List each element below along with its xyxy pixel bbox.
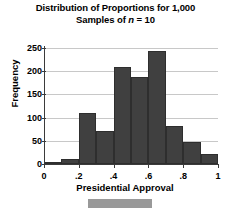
y-axis-tick-mark bbox=[42, 141, 46, 142]
histogram-bar bbox=[148, 51, 165, 164]
y-axis-label: Frequency bbox=[9, 44, 20, 124]
y-axis-tick-mark bbox=[42, 48, 46, 49]
histogram-bar-group bbox=[44, 48, 218, 164]
caption-strip bbox=[88, 199, 152, 208]
x-axis-tick-label: 0 bbox=[33, 171, 55, 181]
y-axis-tick-mark bbox=[42, 118, 46, 119]
histogram-bar bbox=[96, 131, 113, 164]
y-axis-tick-mark bbox=[42, 71, 46, 72]
chart-title-line-1: Distribution of Proportions for 1,000 bbox=[0, 2, 231, 14]
x-axis-tick-label: 1 bbox=[207, 171, 229, 181]
x-axis-tick-mark bbox=[79, 164, 80, 168]
x-axis-tick-mark bbox=[114, 164, 115, 168]
histogram-bar bbox=[114, 67, 131, 164]
chart-title-line-2-suffix: = 10 bbox=[134, 14, 155, 25]
x-axis-tick-mark bbox=[218, 164, 219, 168]
histogram-bar bbox=[201, 154, 218, 164]
x-axis-tick-label: .8 bbox=[172, 171, 194, 181]
histogram-bar bbox=[79, 113, 96, 164]
chart-title: Distribution of Proportions for 1,000 Sa… bbox=[0, 2, 231, 26]
chart-title-line-2-prefix: Samples of bbox=[76, 14, 128, 25]
y-axis-tick-label: 50 bbox=[14, 137, 42, 146]
chart-title-line-2: Samples of n = 10 bbox=[0, 14, 231, 26]
x-axis-tick-label: .4 bbox=[103, 171, 125, 181]
x-axis-label: Presidential Approval bbox=[30, 182, 220, 193]
y-axis-tick-label: 0 bbox=[14, 160, 42, 169]
histogram-figure: Distribution of Proportions for 1,000 Sa… bbox=[0, 0, 231, 208]
x-axis-tick-mark bbox=[44, 164, 45, 168]
histogram-bar bbox=[166, 126, 183, 164]
histogram-bar bbox=[183, 142, 200, 164]
y-axis-line bbox=[44, 46, 45, 166]
x-axis-line bbox=[44, 164, 219, 165]
x-axis-tick-mark bbox=[183, 164, 184, 168]
x-axis-tick-label: .2 bbox=[68, 171, 90, 181]
histogram-bar bbox=[131, 77, 148, 164]
x-axis-tick-mark bbox=[148, 164, 149, 168]
x-axis-tick-label: .6 bbox=[137, 171, 159, 181]
y-axis-tick-mark bbox=[42, 94, 46, 95]
